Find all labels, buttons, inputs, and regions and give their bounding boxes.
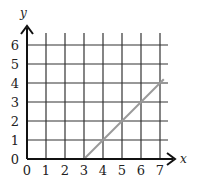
series-line bbox=[84, 79, 164, 159]
y-tick-label: 5 bbox=[11, 57, 19, 72]
x-tick-label: 2 bbox=[61, 163, 69, 178]
y-tick-label: 6 bbox=[11, 38, 19, 53]
x-tick-label: 1 bbox=[42, 163, 50, 178]
y-tick-label: 0 bbox=[11, 152, 19, 167]
y-tick-label: 4 bbox=[11, 76, 19, 91]
y-tick-label: 2 bbox=[11, 114, 19, 129]
y-tick-labels: 0123456 bbox=[11, 38, 19, 167]
x-tick-label: 7 bbox=[156, 163, 164, 178]
y-tick-label: 1 bbox=[11, 133, 19, 148]
x-tick-label: 0 bbox=[23, 163, 31, 178]
x-tick-label: 3 bbox=[80, 163, 88, 178]
y-axis-label: y bbox=[19, 6, 27, 20]
y-tick-label: 3 bbox=[11, 95, 19, 110]
x-tick-label: 5 bbox=[118, 163, 126, 178]
coordinate-plane: y x 01234567 0123456 bbox=[0, 0, 197, 182]
x-axis-label: x bbox=[180, 152, 187, 166]
data-series bbox=[84, 79, 164, 159]
x-tick-labels: 01234567 bbox=[23, 163, 164, 178]
x-tick-label: 4 bbox=[99, 163, 107, 178]
x-tick-label: 6 bbox=[137, 163, 145, 178]
